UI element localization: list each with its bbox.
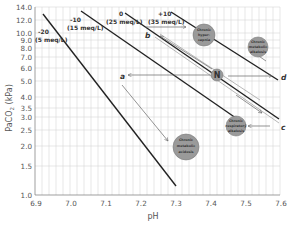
svg-text:capnia: capnia — [198, 38, 210, 42]
svg-text:-10: -10 — [70, 16, 81, 23]
svg-text:metabolic: metabolic — [177, 144, 195, 148]
svg-text:alkalosis: alkalosis — [250, 50, 266, 54]
svg-text:+10: +10 — [158, 10, 171, 17]
svg-text:acidosis: acidosis — [179, 150, 194, 154]
svg-text:-20: -20 — [38, 28, 49, 35]
y-tick: 6.0 — [21, 64, 33, 73]
svg-text:b: b — [145, 31, 151, 40]
y-tick: 7.0 — [21, 53, 33, 62]
svg-text:a: a — [120, 72, 125, 81]
circle-hypercapnia: Chronic hyper- capnia — [193, 24, 215, 46]
svg-text:Chronic: Chronic — [179, 138, 193, 142]
circle-metabolic-alkalosis: Chronic metabolic alkalosis — [248, 37, 268, 57]
x-tick: 7.6 — [275, 199, 287, 208]
normal-point: N — [211, 69, 223, 81]
x-tick: 7.5 — [240, 199, 251, 208]
svg-text:(25 meq/L): (25 meq/L) — [106, 18, 143, 26]
svg-text:Chronic: Chronic — [251, 40, 265, 44]
x-axis-label: pH — [147, 212, 158, 221]
x-tick: 7.4 — [205, 199, 217, 208]
svg-text:0: 0 — [119, 10, 123, 17]
y-axis-ticks: 14.0 12.0 10.0 9.0 8.0 7.0 6.0 5.0 4.0 3… — [16, 3, 32, 200]
svg-text:metabolic: metabolic — [249, 45, 267, 49]
svg-text:(15 meq/L): (15 meq/L) — [67, 24, 104, 32]
acid-base-chart: 14.0 12.0 10.0 9.0 8.0 7.0 6.0 5.0 4.0 3… — [0, 0, 304, 227]
y-tick: 12.0 — [16, 16, 32, 25]
x-tick: 7.1 — [100, 199, 111, 208]
svg-text:(35 meq/L): (35 meq/L) — [148, 18, 185, 26]
svg-text:N: N — [214, 71, 221, 80]
x-tick: 7.0 — [65, 199, 77, 208]
svg-text:hyper-: hyper- — [198, 33, 211, 37]
svg-text:c: c — [281, 123, 286, 132]
svg-text:respiratory: respiratory — [226, 124, 248, 128]
y-tick: 1.5 — [21, 162, 32, 171]
y-tick: 3.0 — [21, 113, 33, 122]
x-tick: 7.3 — [170, 199, 181, 208]
svg-text:Chronic: Chronic — [229, 119, 243, 123]
svg-text:alkalosis: alkalosis — [228, 129, 244, 133]
x-axis-ticks: 6.9 7.0 7.1 7.2 7.3 7.4 7.5 7.6 — [30, 199, 287, 208]
svg-text:Chronic: Chronic — [197, 28, 211, 32]
circle-respiratory-alkalosis: Chronic respiratory alkalosis — [226, 116, 248, 136]
x-tick: 6.9 — [30, 199, 42, 208]
y-tick: 8.0 — [21, 44, 33, 53]
y-axis-label: PaCO2 (kPa) — [5, 84, 15, 132]
y-tick: 2.5 — [21, 126, 32, 135]
svg-text:d: d — [281, 73, 287, 82]
y-tick: 5.0 — [21, 77, 33, 86]
y-tick: 2.0 — [21, 142, 33, 151]
svg-text:(5 meq/L): (5 meq/L) — [35, 36, 68, 44]
x-tick: 7.2 — [135, 199, 146, 208]
circle-metabolic-acidosis: Chronic metabolic acidosis — [173, 134, 199, 160]
y-tick: 4.0 — [21, 93, 33, 102]
y-tick: 14.0 — [16, 3, 32, 12]
y-tick: 3.5 — [21, 104, 32, 113]
